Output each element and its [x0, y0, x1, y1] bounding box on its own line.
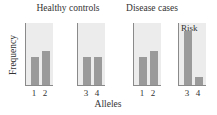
bar-disease-allele-4 [195, 77, 203, 85]
bar-healthy-allele-4 [94, 57, 102, 85]
bar-healthy-allele-3 [83, 57, 91, 85]
bar-disease-allele-3 [184, 31, 192, 85]
panel-healthy-alleles-1-2 [25, 23, 53, 86]
tick-label: 4 [196, 88, 201, 98]
group-title-disease-cases: Disease cases [126, 3, 178, 13]
bar-healthy-allele-1 [31, 57, 39, 85]
tick-label: 3 [185, 88, 190, 98]
tick-label: 2 [151, 88, 156, 98]
tick-label: 4 [95, 88, 100, 98]
bar-disease-allele-2 [150, 51, 158, 85]
group-title-healthy-controls: Healthy controls [36, 3, 99, 13]
tick-label: 1 [32, 88, 37, 98]
tick-label: 3 [84, 88, 89, 98]
y-axis-label: Frequency [8, 35, 18, 75]
panel-disease-alleles-1-2 [133, 23, 161, 86]
bar-healthy-allele-2 [42, 51, 50, 85]
tick-label: 1 [140, 88, 145, 98]
bar-disease-allele-1 [139, 57, 147, 85]
x-axis-label: Alleles [95, 99, 122, 109]
tick-label: 2 [43, 88, 48, 98]
panel-healthy-alleles-3-4 [77, 23, 105, 86]
panel-disease-alleles-3-4: Risk [178, 23, 206, 86]
